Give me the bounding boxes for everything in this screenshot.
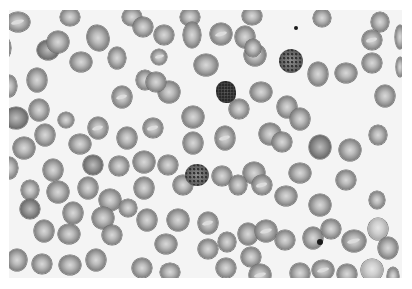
red-blood-cell	[272, 132, 292, 152]
red-blood-cell	[371, 12, 389, 32]
red-blood-cell	[86, 249, 106, 271]
red-blood-cell	[108, 47, 126, 69]
red-blood-cell	[378, 237, 398, 259]
red-blood-cell	[133, 151, 155, 173]
red-blood-cell	[339, 139, 361, 161]
red-blood-cell	[9, 249, 27, 271]
red-blood-cell	[215, 126, 235, 150]
red-blood-cell	[133, 17, 153, 37]
stippled-cell	[185, 164, 209, 186]
red-blood-cell	[63, 202, 83, 224]
red-blood-cell	[308, 62, 328, 86]
red-blood-cell	[167, 209, 189, 231]
red-blood-cell	[290, 263, 310, 278]
red-blood-cell	[183, 132, 203, 154]
red-blood-cell	[255, 220, 277, 242]
dark-particle	[317, 239, 323, 245]
blood-smear-micrograph	[9, 10, 402, 278]
red-blood-cell	[83, 155, 103, 175]
red-blood-cell	[109, 156, 129, 176]
red-blood-cell	[9, 157, 18, 179]
red-blood-cell	[78, 177, 98, 199]
red-blood-cell	[60, 10, 80, 26]
red-blood-cell	[289, 163, 311, 183]
red-blood-cell	[369, 125, 387, 145]
red-blood-cell	[218, 232, 236, 252]
red-blood-cell	[137, 209, 157, 231]
stippled-cell	[279, 49, 303, 73]
red-blood-cell	[362, 53, 382, 73]
red-blood-cell	[198, 239, 218, 259]
red-blood-cell	[342, 230, 366, 252]
red-blood-cell	[146, 72, 166, 92]
red-blood-cell	[321, 219, 341, 239]
red-blood-cell	[216, 258, 236, 278]
red-blood-cell	[369, 191, 385, 209]
red-blood-cell	[160, 263, 180, 278]
red-blood-cell	[229, 175, 247, 195]
red-blood-cell	[362, 30, 382, 50]
red-blood-cell	[70, 52, 92, 72]
red-blood-cell	[245, 39, 261, 57]
red-blood-cell	[303, 227, 323, 249]
red-blood-cell	[336, 170, 356, 190]
red-blood-cell	[158, 155, 178, 175]
red-blood-cell	[387, 267, 399, 278]
red-blood-cell	[275, 230, 295, 250]
red-blood-cell	[134, 177, 154, 199]
red-blood-cell	[9, 36, 11, 60]
red-blood-cell	[337, 264, 357, 278]
red-blood-cell	[88, 117, 108, 139]
red-blood-cell	[210, 23, 232, 45]
red-blood-cell	[249, 264, 271, 278]
red-blood-cell	[194, 54, 218, 76]
red-blood-cell	[143, 118, 163, 138]
red-blood-cell	[58, 112, 74, 128]
red-blood-cell	[27, 68, 47, 92]
red-blood-cell	[9, 12, 30, 32]
red-blood-cell	[275, 186, 297, 206]
red-blood-cell	[32, 254, 52, 274]
red-blood-cell	[29, 99, 49, 121]
red-blood-cell	[13, 137, 35, 159]
red-blood-cell	[250, 82, 272, 102]
red-blood-cell	[43, 159, 63, 181]
red-blood-cell	[182, 106, 204, 128]
red-blood-cell	[335, 63, 357, 83]
red-blood-cell	[242, 10, 262, 25]
red-blood-cell	[396, 57, 402, 77]
red-blood-cell	[9, 75, 17, 97]
red-blood-cell	[395, 25, 402, 49]
red-blood-cell	[155, 234, 177, 254]
red-blood-cell	[361, 259, 383, 278]
red-blood-cell	[313, 10, 331, 27]
red-blood-cell	[58, 224, 80, 244]
red-blood-cell	[47, 181, 69, 203]
red-blood-cell	[102, 225, 122, 245]
red-blood-cell	[117, 127, 137, 149]
red-blood-cell	[9, 107, 28, 129]
red-blood-cell	[21, 180, 39, 200]
red-blood-cell	[35, 124, 55, 146]
red-blood-cell	[47, 31, 69, 53]
red-blood-cell	[309, 194, 331, 216]
red-blood-cell	[154, 25, 174, 45]
red-blood-cell	[69, 134, 91, 154]
red-blood-cell	[20, 199, 40, 219]
dark-particle	[294, 26, 298, 30]
red-blood-cell	[84, 23, 112, 54]
red-blood-cell	[59, 255, 81, 275]
red-blood-cell	[119, 199, 137, 217]
red-blood-cell	[290, 108, 310, 130]
red-blood-cell	[198, 212, 218, 234]
red-blood-cell	[252, 175, 272, 195]
red-blood-cell	[312, 260, 334, 278]
red-blood-cell	[375, 85, 395, 107]
red-blood-cell	[34, 220, 54, 242]
red-blood-cell	[112, 86, 132, 108]
red-blood-cell	[183, 22, 201, 48]
red-blood-cell	[151, 49, 167, 65]
red-blood-cell	[132, 258, 152, 278]
red-blood-cell	[309, 135, 331, 159]
red-blood-cell	[229, 99, 249, 119]
